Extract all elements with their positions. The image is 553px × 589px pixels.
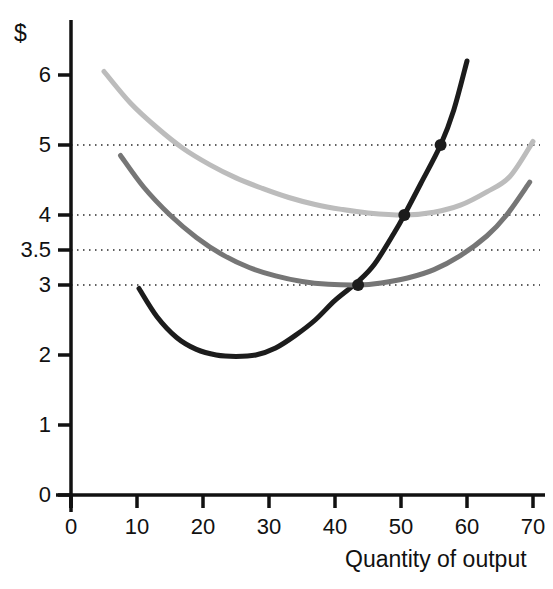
y-axis-label-6: 6	[39, 64, 51, 86]
axis-ticks-group	[58, 75, 533, 508]
curve-marginal-cost	[139, 61, 467, 356]
y-axis-title: $	[14, 22, 27, 45]
x-axis-label-50: 50	[389, 516, 413, 538]
x-axis-title: Quantity of output	[345, 548, 527, 571]
x-axis-label-30: 30	[257, 516, 281, 538]
y-axis-label-3.5: 3.5	[20, 239, 51, 261]
plot-area	[0, 0, 553, 589]
x-axis-label-60: 60	[455, 516, 479, 538]
point-mc-atc-intersection	[398, 209, 410, 221]
curve-average-variable-cost	[121, 156, 530, 286]
x-axis-label-20: 20	[191, 516, 215, 538]
x-axis-label-70: 70	[521, 516, 545, 538]
data-series-group	[104, 61, 533, 356]
axes-group	[56, 20, 545, 512]
point-mc-upper-point	[435, 139, 447, 151]
y-axis-label-2: 2	[39, 344, 51, 366]
point-mc-avc-intersection	[352, 279, 364, 291]
x-axis-label-0: 0	[65, 516, 77, 538]
y-axis-label-3: 3	[39, 274, 51, 296]
y-axis-label-4: 4	[39, 204, 51, 226]
curve-average-total-cost	[104, 72, 533, 216]
y-axis-label-0: 0	[39, 484, 51, 506]
gridlines-group	[71, 145, 540, 285]
y-axis-label-5: 5	[39, 134, 51, 156]
y-axis-label-1: 1	[39, 414, 51, 436]
x-axis-label-10: 10	[125, 516, 149, 538]
cost-curves-chart: $ Quantity of output 01233.5456 01020304…	[0, 0, 553, 589]
x-axis-label-40: 40	[323, 516, 347, 538]
